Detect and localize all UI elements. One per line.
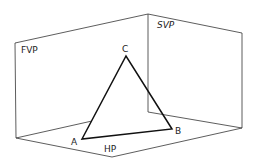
vertex-a-label: A	[71, 137, 78, 147]
triangle-abc	[82, 56, 172, 139]
svp-label: SVP	[157, 20, 175, 30]
fvp-label: FVP	[21, 45, 38, 55]
vertex-c-label: C	[122, 44, 128, 54]
orthographic-planes-diagram: FVP SVP HP A B C	[0, 0, 254, 163]
vertex-b-label: B	[175, 126, 181, 136]
fvp-plane	[15, 14, 148, 138]
svp-plane	[148, 14, 242, 128]
hp-label: HP	[104, 144, 117, 154]
